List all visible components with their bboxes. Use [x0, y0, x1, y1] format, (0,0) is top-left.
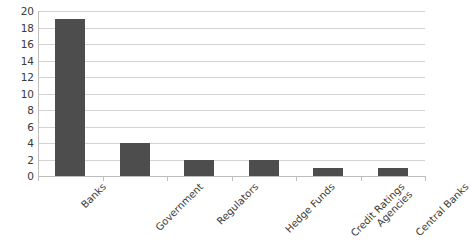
- y-axis-tick-label: 4: [4, 138, 34, 148]
- x-axis-category-label-line: Regulators: [215, 181, 261, 227]
- y-axis-tick-label: 0: [4, 171, 34, 181]
- y-axis-tick-label: 2: [4, 155, 34, 165]
- bar-slot: [103, 11, 168, 176]
- x-axis-category-label-line: Hedge Funds: [283, 181, 337, 235]
- y-axis-tick-label: 10: [4, 89, 34, 99]
- x-axis-category-label: Regulators: [215, 181, 261, 227]
- bar[interactable]: [249, 160, 279, 177]
- bar[interactable]: [120, 143, 150, 176]
- y-axis-tick-label: 14: [4, 56, 34, 66]
- bar[interactable]: [184, 160, 214, 177]
- x-axis-category-label: Banks: [79, 181, 108, 210]
- y-axis-tick-label: 12: [4, 72, 34, 82]
- x-axis-category-label: Credit RatingsAgencies: [349, 181, 415, 242]
- y-axis-tick-label: 6: [4, 122, 34, 132]
- y-axis-tick-label: 16: [4, 39, 34, 49]
- x-axis-category-label: Central Banks: [413, 181, 470, 238]
- x-axis-tick: [425, 176, 426, 181]
- y-axis-tick-label: 18: [4, 23, 34, 33]
- y-axis-tick-label: 20: [4, 6, 34, 16]
- bar-slot: [38, 11, 103, 176]
- x-axis-category-label-line: Central Banks: [413, 181, 470, 238]
- bar-slot: [361, 11, 426, 176]
- x-axis-category-label-line: Banks: [79, 181, 108, 210]
- bar[interactable]: [55, 19, 85, 176]
- bar[interactable]: [378, 168, 408, 176]
- x-axis-category-label: Hedge Funds: [283, 181, 337, 235]
- bar-slot: [167, 11, 232, 176]
- x-axis-category-label-line: Government: [153, 181, 205, 233]
- y-axis-tick-label: 8: [4, 105, 34, 115]
- bars-container: [38, 11, 425, 176]
- x-axis-category-labels: BanksGovernmentRegulatorsHedge FundsCred…: [38, 181, 425, 242]
- y-axis-tick-labels: 20181614121086420: [0, 11, 34, 176]
- x-axis-category-label: Government: [153, 181, 205, 233]
- bar-slot: [232, 11, 297, 176]
- bar[interactable]: [313, 168, 343, 176]
- bar-slot: [296, 11, 361, 176]
